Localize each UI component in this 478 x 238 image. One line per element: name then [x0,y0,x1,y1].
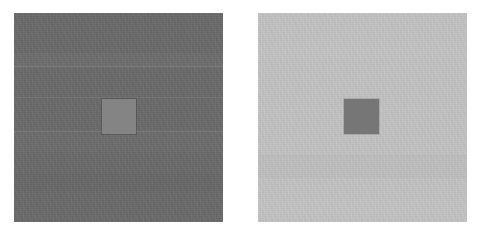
illusion-canvas [0,0,478,238]
left-test-patch [102,99,136,134]
left-surround-panel [14,13,223,222]
right-band-3 [258,156,467,178]
right-surround-panel [258,13,467,222]
right-test-patch [344,99,379,134]
left-band-2 [14,97,223,98]
right-band-0 [258,43,467,59]
left-band-4 [14,132,223,152]
left-band-0 [14,53,223,67]
left-band-5 [14,173,223,191]
left-band-1 [14,66,223,67]
right-band-4 [258,199,467,215]
right-band-2 [258,155,467,156]
